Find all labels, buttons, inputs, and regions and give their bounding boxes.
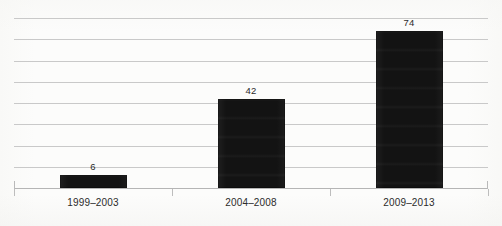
category-tick [14,189,15,196]
bar [60,175,127,188]
y-axis-left-cap [14,181,15,189]
category-label: 2009–2013 [330,197,488,208]
category-tick [172,189,173,196]
bar-chart: 64274 1999–20032004–20082009–2013 [0,0,502,226]
bar-value-label: 6 [60,161,127,172]
category-tick [330,189,331,196]
bar [218,99,285,188]
x-axis-right-cap [487,181,488,189]
x-axis-baseline [14,188,488,189]
category-tick [488,189,489,196]
bar-value-label: 42 [218,85,285,96]
bar-texture [376,31,443,188]
bar-texture [218,99,285,188]
category-label: 1999–2003 [14,197,172,208]
bar-texture [60,175,127,188]
bar [376,31,443,188]
bar-value-label: 74 [376,17,443,28]
category-label: 2004–2008 [172,197,330,208]
